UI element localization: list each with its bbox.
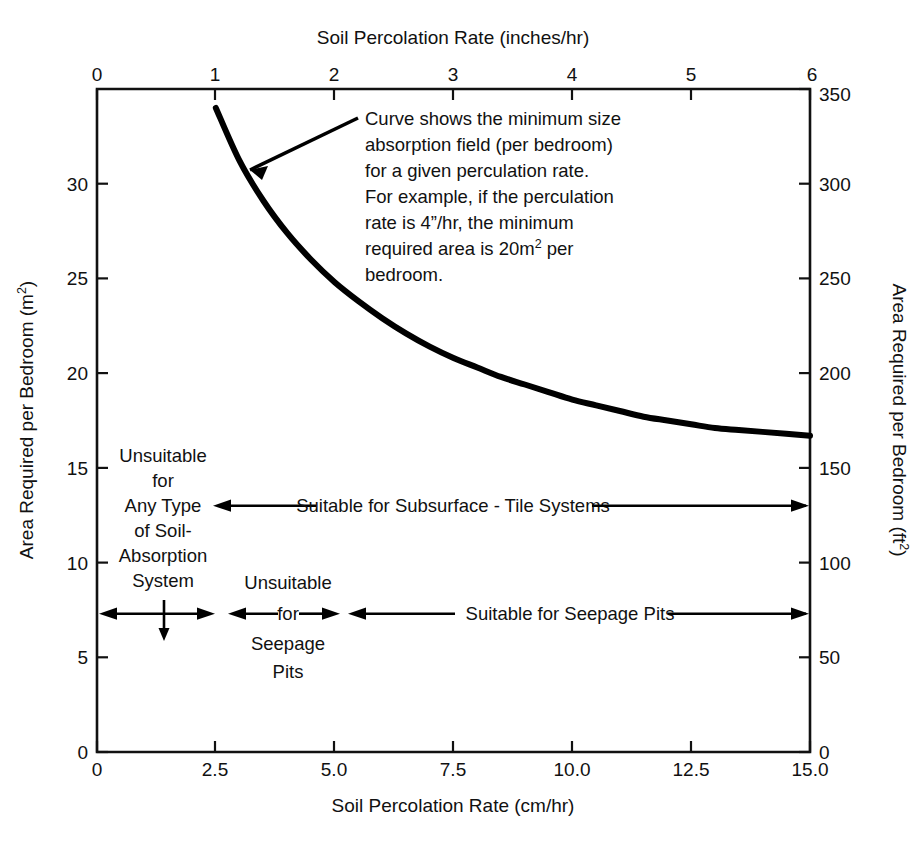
right-tick-label: 50 xyxy=(819,647,840,668)
callout-line-5: rate is 4”/hr, the minimum xyxy=(365,212,574,233)
callout-line-2: absorption field (per bedroom) xyxy=(365,134,613,155)
percolation-chart: 0 1 2 3 4 5 6 Soil Percolation Rate (inc… xyxy=(0,0,920,843)
callout-line-7: bedroom. xyxy=(365,264,443,285)
right-axis-title-pre: Area Required per Bedroom (ft xyxy=(889,283,910,544)
right-axis-title: Area Required per Bedroom (ft2) xyxy=(889,283,911,556)
right-tick-label: 300 xyxy=(819,174,851,195)
right-tick-label: 0 xyxy=(819,742,830,763)
left-axis-title-post: ) xyxy=(16,281,37,287)
right-tick-label: 250 xyxy=(819,268,851,289)
top-axis-title: Soil Percolation Rate (inches/hr) xyxy=(317,27,589,48)
callout-line-3: for a given perculation rate. xyxy=(365,160,589,181)
unsuitable-seepage-line-3: Seepage xyxy=(251,633,325,654)
chart-page: 0 1 2 3 4 5 6 Soil Percolation Rate (inc… xyxy=(0,0,920,843)
left-axis-title-sup: 2 xyxy=(15,287,29,294)
top-tick-label: 4 xyxy=(567,64,578,85)
bottom-tick-label: 7.5 xyxy=(440,759,466,780)
unsuitable-seepage-line-1: Unsuitable xyxy=(244,572,331,593)
unsuitable-seepage-line-2: for xyxy=(277,603,299,624)
unsuitable-any-line-3: Any Type xyxy=(125,495,202,516)
unsuitable-any-line-2: for xyxy=(152,470,174,491)
unsuitable-seepage-line-4: Pits xyxy=(273,661,304,682)
callout-line-6: required area is 20m2 per xyxy=(365,237,574,259)
bottom-tick-label: 5.0 xyxy=(321,759,347,780)
bottom-tick-label: 2.5 xyxy=(202,759,228,780)
suitable-subsurface-label: Suitable for Subsurface - Tile Systems xyxy=(296,495,610,516)
left-axis-title: Area Required per Bedroom (m2) xyxy=(15,281,37,559)
suitable-seepage-label: Suitable for Seepage Pits xyxy=(466,603,675,624)
top-tick-label: 6 xyxy=(807,64,818,85)
svg-text:Area Required per Bedroom (m2): Area Required per Bedroom (m2) xyxy=(15,281,37,559)
top-tick-label: 1 xyxy=(210,64,221,85)
unsuitable-any-line-4: of Soil- xyxy=(134,520,192,541)
right-axis-title-post: ) xyxy=(889,550,910,556)
left-tick-label: 0 xyxy=(77,742,88,763)
top-tick-label: 3 xyxy=(448,64,459,85)
unsuitable-any-line-5: Absorption xyxy=(119,545,207,566)
left-tick-label: 30 xyxy=(67,174,88,195)
top-tick-label: 0 xyxy=(92,64,103,85)
left-tick-label: 15 xyxy=(67,458,88,479)
left-tick-label: 10 xyxy=(67,553,88,574)
right-tick-label: 350 xyxy=(819,84,851,105)
callout-line-4: For example, if the perculation xyxy=(365,186,614,207)
left-tick-label: 5 xyxy=(77,647,88,668)
left-tick-label: 20 xyxy=(67,363,88,384)
left-tick-label: 25 xyxy=(67,268,88,289)
svg-text:Area Required per Bedroom (ft2: Area Required per Bedroom (ft2) xyxy=(889,283,911,556)
bottom-tick-label: 0 xyxy=(92,759,103,780)
unsuitable-any-line-1: Unsuitable xyxy=(119,445,206,466)
left-axis-title-pre: Area Required per Bedroom (m xyxy=(16,294,37,559)
callout-line-1: Curve shows the minimum size xyxy=(365,108,621,129)
callout-line-6-sup: 2 xyxy=(535,237,542,251)
right-tick-label: 100 xyxy=(819,553,851,574)
callout-line-6-a: required area is 20m xyxy=(365,238,535,259)
right-tick-label: 150 xyxy=(819,458,851,479)
callout-line-6-b: per xyxy=(542,238,574,259)
right-axis-title-sup: 2 xyxy=(897,543,911,550)
bottom-axis-title: Soil Percolation Rate (cm/hr) xyxy=(332,795,575,816)
top-tick-label: 5 xyxy=(686,64,697,85)
bottom-tick-label: 12.5 xyxy=(673,759,710,780)
top-tick-label: 2 xyxy=(329,64,340,85)
right-tick-label: 200 xyxy=(819,363,851,384)
unsuitable-any-line-6: System xyxy=(132,570,194,591)
bottom-tick-label: 10.0 xyxy=(554,759,591,780)
